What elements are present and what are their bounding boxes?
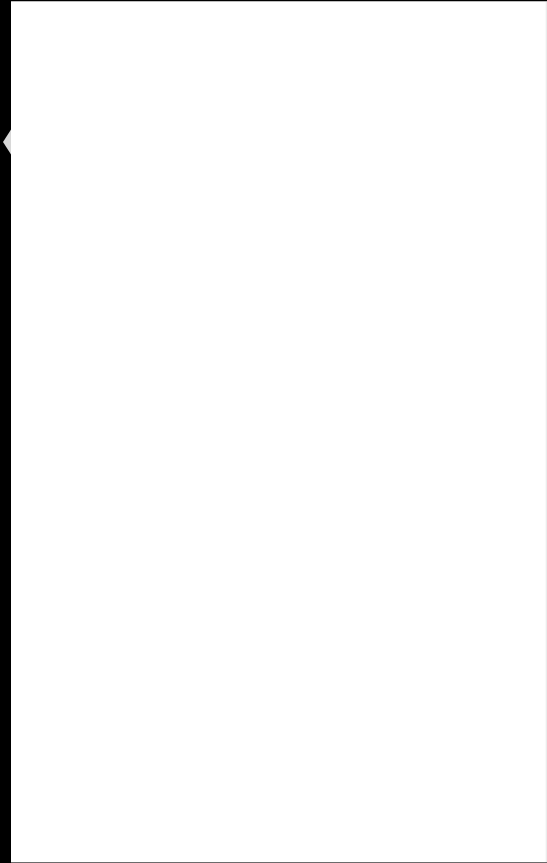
blank-page bbox=[11, 1, 547, 863]
